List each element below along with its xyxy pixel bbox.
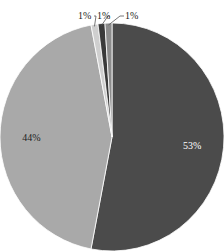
pie-chart: 53%44%1%1%1% xyxy=(0,0,224,251)
slice-label: 53% xyxy=(183,140,201,151)
slice-label: 1% xyxy=(125,10,138,21)
pie-slice xyxy=(0,25,112,249)
slice-label: 44% xyxy=(22,132,40,143)
slice-label: 1% xyxy=(97,10,110,21)
slice-label: 1% xyxy=(78,10,91,21)
